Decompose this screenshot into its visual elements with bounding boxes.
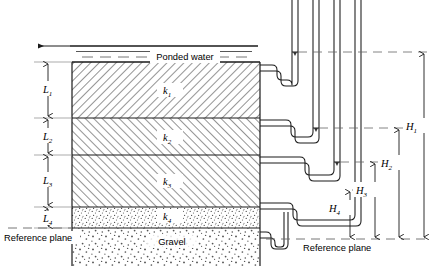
manometer-tube-4	[260, 0, 355, 220]
manometer-tube-2	[260, 0, 313, 137]
tube-water-levels	[292, 52, 361, 194]
diagram-canvas: Ponded water L1 L2 L3 L4 k1 k2 k3 k4 Gra…	[0, 0, 435, 268]
head-dimensions: H1 H2 H3 H4	[326, 54, 429, 237]
permeability-diagram: Ponded water L1 L2 L3 L4 k1 k2 k3 k4 Gra…	[0, 0, 435, 268]
layer-thickness-dimensions: L1 L2 L3 L4	[34, 62, 72, 228]
ponded-water: Ponded water	[38, 44, 258, 63]
reference-plane-label-right: Reference plane	[303, 243, 371, 253]
reference-plane-label-left: Reference plane	[4, 233, 72, 243]
ponded-water-label: Ponded water	[156, 52, 213, 62]
manometer-tube-3	[260, 0, 334, 175]
manometer-tube-1	[260, 0, 292, 85]
gravel-label: Gravel	[158, 237, 185, 247]
